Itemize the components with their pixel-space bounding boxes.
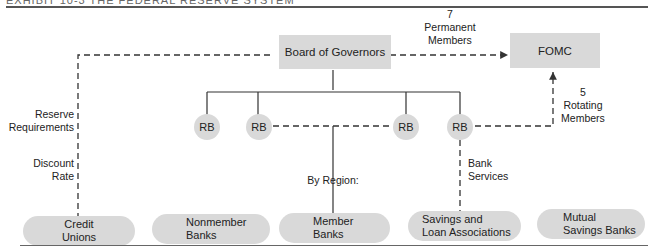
mutual-line2: Savings Banks [563,224,645,237]
bank-services-label: Bank Services [468,157,508,183]
rb-node-1: RB [194,114,220,140]
discount-line1: Discount [2,157,74,170]
savings-loan-line2: Loan Associations [422,226,521,239]
footer-rule [20,245,648,246]
rotating-line2: Members [558,112,608,125]
bank-services-line1: Bank [468,157,508,170]
permanent-count: 7 [415,8,485,21]
fomc-label: FOMC [538,45,572,57]
rb-node-2: RB [246,114,272,140]
rotating-members-label: 5 Rotating Members [558,86,608,125]
member-banks-node: Member Banks [279,213,390,243]
member-line1: Member [313,215,390,228]
credit-unions-line2: Unions [23,231,135,244]
nonmember-line1: Nonmember [186,216,270,229]
nonmember-banks-node: Nonmember Banks [152,214,270,244]
by-region-label: By Region: [293,174,373,187]
fomc-node: FOMC [510,33,600,68]
credit-unions-node: Credit Unions [23,216,135,246]
board-tree-line [207,70,460,118]
permanent-line2: Members [415,34,485,47]
credit-unions-line1: Credit [23,218,135,231]
board-label: Board of Governors [285,46,385,58]
board-of-governors-node: Board of Governors [279,35,391,69]
rotating-count: 5 [558,86,608,99]
rb-node-4: RB [447,114,473,140]
mutual-line1: Mutual [563,211,645,224]
rb-to-fomc-line [475,72,553,126]
reserve-requirements-label: Reserve Requirements [2,108,74,134]
rb-node-3: RB [393,114,419,140]
savings-loan-node: Savings and Loan Associations [408,211,521,241]
rotating-line1: Rotating [558,99,608,112]
reserve-line1: Reserve [2,108,74,121]
savings-loan-line1: Savings and [422,213,521,226]
bank-services-line2: Services [468,170,508,183]
permanent-line1: Permanent [415,21,485,34]
mutual-savings-node: Mutual Savings Banks [537,209,645,239]
board-to-credit-unions-line [78,55,270,225]
reserve-line2: Requirements [2,121,74,134]
discount-rate-label: Discount Rate [2,157,74,183]
permanent-members-label: 7 Permanent Members [415,8,485,47]
discount-line2: Rate [2,170,74,183]
nonmember-line2: Banks [186,229,270,242]
member-line2: Banks [313,228,390,241]
